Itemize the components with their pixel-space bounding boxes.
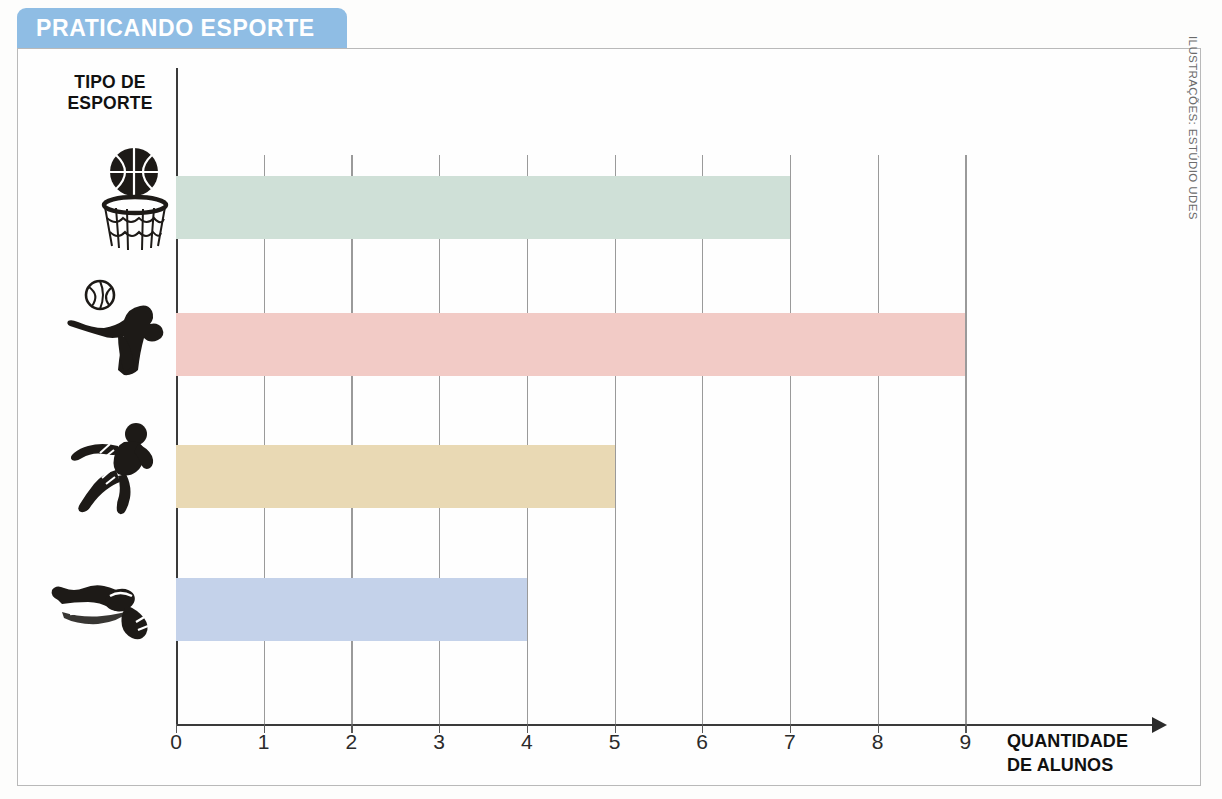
y-axis-title: TIPO DE ESPORTE <box>48 72 172 115</box>
x-axis-arrow-icon <box>1152 717 1167 733</box>
x-axis-line <box>176 724 1161 726</box>
gridline-6 <box>702 155 703 726</box>
swimmer-icon <box>40 556 168 652</box>
x-axis-title: QUANTIDADE DE ALUNOS <box>1007 729 1128 778</box>
chart-page: PRATICANDO ESPORTE TIPO DE ESPORTE 01234… <box>0 0 1222 799</box>
x-tick-label-3: 3 <box>419 730 459 754</box>
x-tick-label-9: 9 <box>945 730 985 754</box>
basketball-hoop-icon <box>96 142 174 254</box>
x-axis-title-line1: QUANTIDADE <box>1007 729 1128 753</box>
bar-corrida <box>176 445 615 508</box>
y-axis-title-line2: ESPORTE <box>48 93 172 114</box>
x-tick-label-0: 0 <box>156 730 196 754</box>
volleyball-player-icon <box>62 278 174 386</box>
bar-vôlei <box>176 313 965 376</box>
runner-icon <box>58 420 172 518</box>
gridline-4 <box>527 155 528 726</box>
gridline-8 <box>878 155 879 726</box>
gridline-5 <box>615 155 616 726</box>
x-tick-label-1: 1 <box>244 730 284 754</box>
gridline-9 <box>965 155 966 726</box>
x-tick-label-6: 6 <box>682 730 722 754</box>
bar-basquete <box>176 176 790 239</box>
y-axis-title-line1: TIPO DE <box>48 72 172 93</box>
x-tick-label-5: 5 <box>595 730 635 754</box>
bar-natação <box>176 578 527 641</box>
chart-area: TIPO DE ESPORTE 0123456789 <box>0 0 1222 799</box>
x-tick-label-7: 7 <box>770 730 810 754</box>
x-tick-label-4: 4 <box>507 730 547 754</box>
x-tick-label-8: 8 <box>858 730 898 754</box>
gridline-7 <box>790 155 791 726</box>
x-axis-title-line2: DE ALUNOS <box>1007 753 1128 777</box>
illustration-credit: ILUSTRAÇÕES: ESTÚDIO UDES <box>1187 36 1199 286</box>
x-tick-label-2: 2 <box>331 730 371 754</box>
